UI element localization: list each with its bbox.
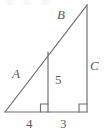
label-side-b: B (57, 8, 65, 21)
hypotenuse-line (5, 5, 87, 112)
right-angle-mark-corner (79, 104, 87, 112)
label-side-c: C (90, 59, 99, 72)
right-angle-mark-inner (41, 104, 49, 112)
label-side-a: A (12, 67, 20, 80)
geometry-figure: A B C 5 4 3 (0, 0, 105, 134)
label-altitude-value: 5 (55, 73, 62, 86)
label-base-left-value: 4 (26, 117, 33, 130)
label-base-right-value: 3 (60, 117, 67, 130)
